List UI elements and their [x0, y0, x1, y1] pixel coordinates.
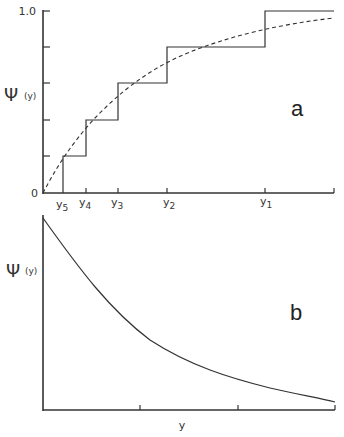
panel-b-y-label: Ψ (y)	[6, 260, 37, 281]
psi-symbol: Ψ	[4, 84, 18, 105]
x-label-y3: y3	[111, 196, 123, 211]
psi-argument: (y)	[25, 266, 37, 276]
panel-b: Ψ (y) y b	[6, 215, 335, 432]
psi-argument: (y)	[24, 91, 36, 101]
panel-a-y-label: Ψ (y)	[4, 84, 36, 105]
psi-symbol: Ψ	[6, 260, 20, 281]
panel-a-x-tick-labels: y5 y4 y3 y2 y1	[56, 195, 272, 213]
x-label-y4: y4	[79, 196, 92, 211]
panel-b-x-label: y	[179, 419, 186, 432]
panel-a-tick-label-top: 1.0	[19, 5, 37, 18]
panel-a-tick-label-zero: 0	[31, 187, 38, 200]
panel-b-letter: b	[290, 300, 302, 325]
x-label-y1: y1	[260, 195, 272, 210]
x-label-y5: y5	[56, 198, 68, 213]
x-label-y2: y2	[163, 196, 175, 211]
panel-a: 1.0 0 Ψ (y) y5 y4 y3 y2 y1 a	[4, 5, 334, 213]
panel-a-letter: a	[291, 96, 304, 121]
figure: 1.0 0 Ψ (y) y5 y4 y3 y2 y1 a Ψ (y) y b	[0, 0, 344, 437]
panel-a-y-ticks	[43, 11, 50, 156]
